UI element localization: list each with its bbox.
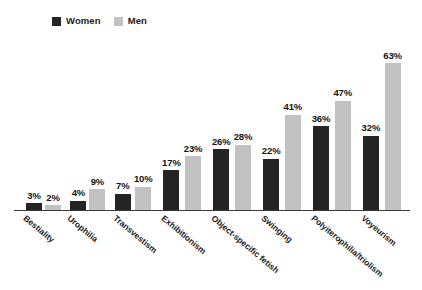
bar-men[interactable]: 28% [234, 132, 253, 210]
bar-rect[interactable] [385, 63, 401, 210]
bar-women[interactable]: 17% [162, 158, 181, 210]
bar-value-label: 2% [46, 193, 60, 203]
bar-women[interactable]: 3% [26, 191, 42, 210]
bar-value-label: 9% [91, 177, 105, 187]
bar-rect[interactable] [115, 194, 131, 210]
bar-rect[interactable] [335, 101, 351, 210]
bar-value-label: 41% [284, 102, 303, 112]
bar-chart: Women Men 3%2%4%9%7%10%17%23%26%28%22%41… [0, 0, 422, 290]
bar-women[interactable]: 26% [212, 137, 231, 210]
bar-rect[interactable] [363, 136, 379, 211]
bar-value-label: 3% [27, 191, 41, 201]
bar-value-label: 22% [262, 146, 281, 156]
bar-women[interactable]: 4% [70, 188, 86, 210]
bar-rect[interactable] [213, 149, 229, 210]
bar-groups: 3%2%4%9%7%10%17%23%26%28%22%41%36%47%32%… [14, 34, 410, 210]
bar-value-label: 47% [333, 88, 352, 98]
bar-rect[interactable] [70, 201, 86, 210]
bar-women[interactable]: 32% [362, 123, 381, 210]
bar-group: 4%9% [70, 177, 105, 210]
bar-men[interactable]: 23% [184, 144, 203, 210]
bar-men[interactable]: 63% [383, 51, 402, 210]
bar-group: 22%41% [262, 102, 302, 210]
x-axis-line [14, 210, 410, 211]
bar-women[interactable]: 22% [262, 146, 281, 210]
bar-men[interactable]: 41% [284, 102, 303, 210]
x-tick-label: Swinging [260, 213, 295, 245]
bar-value-label: 23% [184, 144, 203, 154]
x-axis-tick-labels: BestialityUrophiliaTransvestismExhibitio… [14, 213, 410, 283]
bar-men[interactable]: 10% [134, 174, 153, 210]
bar-value-label: 17% [162, 158, 181, 168]
bar-group: 32%63% [362, 51, 402, 210]
bar-value-label: 63% [383, 51, 402, 61]
legend-label-men: Men [128, 16, 147, 26]
bar-rect[interactable] [135, 187, 151, 210]
bar-group: 36%47% [312, 88, 352, 210]
bar-men[interactable]: 47% [333, 88, 352, 210]
x-tick-label: Urophilia [66, 213, 100, 244]
legend-item-men: Men [114, 16, 147, 26]
plot-area: 3%2%4%9%7%10%17%23%26%28%22%41%36%47%32%… [14, 34, 410, 211]
bar-men[interactable]: 2% [45, 193, 61, 210]
bar-rect[interactable] [26, 203, 42, 210]
bar-group: 3%2% [26, 191, 61, 210]
legend-swatch-square-icon [52, 17, 61, 26]
bar-rect[interactable] [89, 189, 105, 210]
legend-label-women: Women [66, 16, 101, 26]
bar-value-label: 32% [362, 123, 381, 133]
x-tick-label: Bestiality [21, 213, 56, 245]
bar-rect[interactable] [313, 126, 329, 210]
legend-item-women: Women [52, 16, 101, 26]
bar-rect[interactable] [285, 115, 301, 210]
bar-group: 17%23% [162, 144, 202, 210]
x-tick-label: Voyeurism [359, 213, 398, 248]
bar-rect[interactable] [263, 159, 279, 210]
bar-value-label: 36% [312, 114, 331, 124]
legend-swatch-square-icon [114, 17, 123, 26]
bar-value-label: 4% [72, 188, 86, 198]
bar-group: 7%10% [115, 174, 153, 210]
bar-rect[interactable] [163, 170, 179, 210]
x-tick-label: Exhibitionism [160, 213, 209, 256]
bar-group: 26%28% [212, 132, 252, 210]
bar-women[interactable]: 7% [115, 181, 131, 210]
bar-men[interactable]: 9% [89, 177, 105, 210]
bar-women[interactable]: 36% [312, 114, 331, 210]
bar-value-label: 28% [234, 132, 253, 142]
bar-value-label: 26% [212, 137, 231, 147]
chart-legend: Women Men [52, 14, 147, 28]
x-tick-label: Transvestism [111, 213, 159, 255]
bar-rect[interactable] [235, 145, 251, 210]
bar-rect[interactable] [185, 156, 201, 210]
bar-value-label: 10% [134, 174, 153, 184]
bar-value-label: 7% [116, 181, 130, 191]
